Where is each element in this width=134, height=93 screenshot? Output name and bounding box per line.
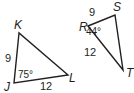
side-label-rt: 12 xyxy=(84,46,96,58)
vertex-label-s: S xyxy=(113,0,121,14)
vertex-label-l: L xyxy=(69,71,76,85)
triangle-rst-outline xyxy=(88,15,123,70)
vertex-label-k: K xyxy=(14,18,23,32)
side-label-jl: 12 xyxy=(40,80,52,92)
geometry-diagram: K J L 9 12 75° R S T 9 12 44° xyxy=(0,0,134,93)
vertex-label-t: T xyxy=(126,66,134,80)
triangle-jkl: K J L 9 12 75° xyxy=(3,18,76,93)
angle-label-r: 44° xyxy=(86,26,101,37)
vertex-label-j: J xyxy=(3,80,11,93)
angle-label-j: 75° xyxy=(18,69,33,80)
triangle-rst: R S T 9 12 44° xyxy=(79,0,134,80)
side-label-rs: 9 xyxy=(89,6,95,18)
side-label-jk: 9 xyxy=(5,52,11,64)
